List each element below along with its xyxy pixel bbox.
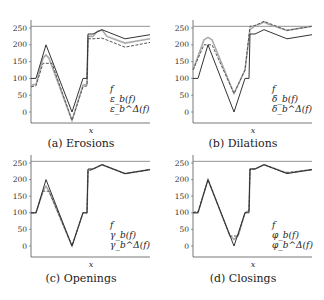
caption-closings: (d) Closings	[162, 272, 324, 285]
svg-text:250: 250	[175, 159, 190, 168]
legend-entry-f: f	[110, 84, 150, 94]
svg-text:50: 50	[179, 91, 189, 100]
svg-text:50: 50	[179, 225, 189, 234]
panel-erosions: 050100150200250 f ε_b(f) ε_b^Δ(f) x (a) …	[0, 0, 162, 150]
svg-text:250: 250	[13, 24, 28, 33]
svg-text:100: 100	[175, 208, 190, 217]
svg-text:200: 200	[13, 40, 28, 49]
svg-text:150: 150	[175, 192, 190, 201]
svg-text:200: 200	[175, 175, 190, 184]
legend-erosions: f ε_b(f) ε_b^Δ(f)	[110, 84, 150, 114]
legend-entry-erosion: ε_b(f)	[110, 94, 150, 104]
legend-entry-dilation-delta: δ_b^Δ(f)	[272, 104, 312, 114]
caption-erosions: (a) Erosions	[0, 137, 162, 150]
svg-text:0: 0	[184, 108, 189, 117]
svg-text:100: 100	[13, 74, 28, 83]
panel-closings: 050100150200250 f φ_b(f) φ_b^Δ(f) x (d) …	[162, 150, 324, 300]
svg-text:0: 0	[22, 242, 27, 251]
legend-entry-f: f	[272, 220, 313, 230]
x-axis-label: x	[10, 260, 172, 269]
legend-dilations: f δ_b(f) δ_b^Δ(f)	[272, 84, 312, 114]
svg-text:200: 200	[13, 175, 28, 184]
svg-text:50: 50	[17, 225, 27, 234]
legend-openings: f γ_b(f) γ_b^Δ(f)	[110, 220, 150, 250]
legend-entry-closing: φ_b(f)	[272, 230, 313, 240]
panel-openings: 050100150200250 f γ_b(f) γ_b^Δ(f) x (c) …	[0, 150, 162, 300]
svg-text:0: 0	[184, 242, 189, 251]
svg-text:150: 150	[175, 57, 190, 66]
svg-text:250: 250	[175, 24, 190, 33]
panel-dilations: 050100150200250 f δ_b(f) δ_b^Δ(f) x (b) …	[162, 0, 324, 150]
legend-entry-closing-delta: φ_b^Δ(f)	[272, 240, 313, 250]
legend-entry-erosion-delta: ε_b^Δ(f)	[110, 104, 150, 114]
legend-entry-dilation: δ_b(f)	[272, 94, 312, 104]
svg-text:150: 150	[13, 192, 28, 201]
svg-text:250: 250	[13, 159, 28, 168]
legend-entry-f: f	[272, 84, 312, 94]
legend-entry-f: f	[110, 220, 150, 230]
x-axis-label: x	[10, 126, 172, 135]
svg-text:50: 50	[17, 91, 27, 100]
legend-entry-opening-delta: γ_b^Δ(f)	[110, 240, 150, 250]
svg-text:0: 0	[22, 108, 27, 117]
svg-text:200: 200	[175, 40, 190, 49]
legend-closings: f φ_b(f) φ_b^Δ(f)	[272, 220, 313, 250]
svg-text:150: 150	[13, 57, 28, 66]
caption-dilations: (b) Dilations	[162, 137, 324, 150]
caption-openings: (c) Openings	[0, 272, 162, 285]
x-axis-label: x	[172, 126, 324, 135]
svg-text:100: 100	[13, 208, 28, 217]
svg-text:100: 100	[175, 74, 190, 83]
legend-entry-opening: γ_b(f)	[110, 230, 150, 240]
x-axis-label: x	[172, 260, 324, 269]
